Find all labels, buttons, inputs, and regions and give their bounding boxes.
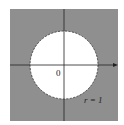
- origin-label: 0: [56, 68, 61, 78]
- radius-label: r = 1: [84, 95, 103, 105]
- diagram: 0 r = 1: [0, 0, 124, 125]
